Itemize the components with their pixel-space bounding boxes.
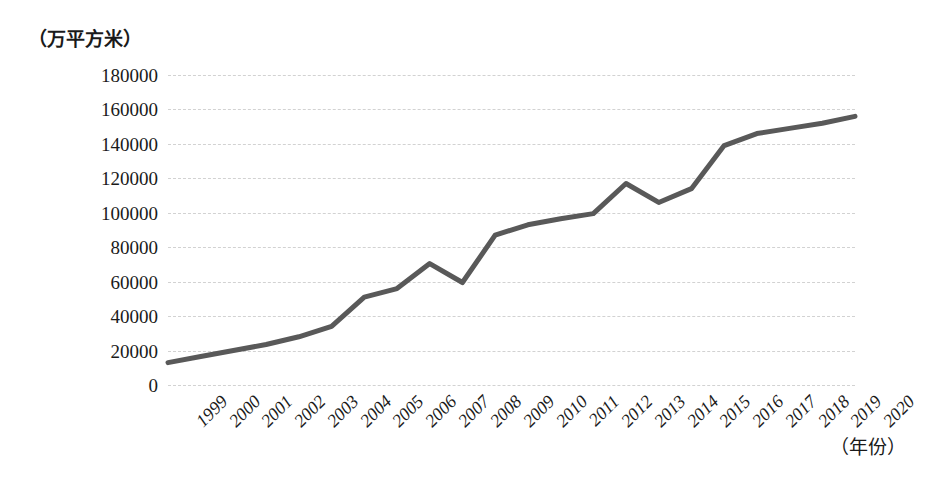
x-axis-tick-label: 2020 (880, 392, 918, 430)
x-axis-tick-label: 2003 (323, 392, 361, 430)
x-axis-tick-label: 2007 (454, 392, 492, 430)
series-line (168, 116, 855, 362)
x-axis-tick-label: 2012 (618, 392, 656, 430)
y-axis-tick-label: 160000 (8, 100, 158, 119)
x-axis-tick-label: 1999 (193, 392, 231, 430)
y-axis-tick-label: 40000 (8, 307, 158, 326)
x-axis-tick-label: 2017 (781, 392, 819, 430)
y-axis-tick-label: 60000 (8, 272, 158, 291)
y-axis-tick-label: 80000 (8, 238, 158, 257)
x-axis-tick-label: 2008 (487, 392, 525, 430)
x-axis-tick-label: 2009 (520, 392, 558, 430)
x-axis-tick-label: 2018 (814, 392, 852, 430)
x-axis-tick-label: 2005 (389, 392, 427, 430)
x-axis-tick-label: 2013 (651, 392, 689, 430)
gridline (168, 385, 855, 386)
x-axis-unit-label: （年份） (830, 432, 906, 459)
x-axis-tick-label: 2016 (749, 392, 787, 430)
x-axis-tick-label: 2011 (585, 392, 622, 429)
x-axis-tick-label: 2014 (683, 392, 721, 430)
x-axis-tick-label: 2006 (422, 392, 460, 430)
x-axis-tick-label: 2015 (716, 392, 754, 430)
y-axis-tick-label: 20000 (8, 341, 158, 360)
y-axis-tick-label: 120000 (8, 169, 158, 188)
series-line-chart (168, 75, 855, 385)
x-axis-tick-labels: 1999200020012002200320042005200620072008… (168, 392, 868, 489)
plot-area (168, 75, 855, 385)
y-axis-tick-label: 100000 (8, 203, 158, 222)
x-axis-tick-label: 2002 (291, 392, 329, 430)
x-axis-tick-label: 2000 (225, 392, 263, 430)
x-axis-tick-label: 2001 (258, 392, 296, 430)
y-axis-tick-label: 140000 (8, 134, 158, 153)
y-axis-tick-label: 0 (8, 376, 158, 395)
x-axis-tick-label: 2004 (356, 392, 394, 430)
y-axis-tick-label: 180000 (8, 66, 158, 85)
chart-page: （万平方米） 020000400006000080000100000120000… (0, 0, 946, 489)
y-axis-tick-labels: 0200004000060000800001000001200001400001… (0, 0, 158, 489)
x-axis-tick-label: 2019 (847, 392, 885, 430)
x-axis-tick-label: 2010 (552, 392, 590, 430)
